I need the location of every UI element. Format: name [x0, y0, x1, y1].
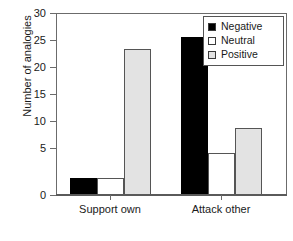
y-tick-label-15: 15 — [22, 89, 46, 100]
legend: Negative Neutral Positive — [203, 16, 284, 66]
bar-support-own-neutral — [97, 178, 124, 195]
x-axis-label-support-own: Support own — [60, 203, 160, 215]
y-tick-label-20: 20 — [22, 62, 46, 73]
legend-label-neutral: Neutral — [221, 35, 255, 46]
legend-swatch-neutral-icon — [208, 37, 216, 45]
y-tick-label-30: 30 — [22, 8, 46, 19]
legend-label-negative: Negative — [221, 21, 262, 32]
legend-swatch-positive-icon — [208, 51, 216, 59]
y-tick-20: 20 — [0, 62, 56, 73]
bar-chart: Number of analogies 30 25 20 15 10 5 0 — [0, 0, 293, 241]
legend-item-positive: Positive — [208, 48, 279, 61]
bar-attack-other-positive — [235, 128, 262, 195]
bar-support-own-positive — [124, 49, 151, 195]
y-tick-label-0: 0 — [22, 190, 46, 201]
x-tickmark-attack-other — [221, 195, 222, 200]
legend-label-positive: Positive — [221, 49, 258, 60]
x-tickmark-support-own — [110, 195, 111, 200]
y-tick-5: 5 — [0, 143, 56, 154]
y-axis-ticks: 30 25 20 15 10 5 0 — [0, 0, 56, 241]
y-tick-label-10: 10 — [22, 116, 46, 127]
y-tick-10: 10 — [0, 116, 56, 127]
y-tick-label-25: 25 — [22, 35, 46, 46]
legend-item-negative: Negative — [208, 20, 279, 33]
legend-item-neutral: Neutral — [208, 34, 279, 47]
y-tick-25: 25 — [0, 35, 56, 46]
legend-swatch-negative-icon — [208, 23, 216, 31]
y-tick-15: 15 — [0, 89, 56, 100]
bar-support-own-negative — [70, 178, 97, 195]
bar-attack-other-neutral — [208, 153, 235, 195]
y-tick-30: 30 — [0, 8, 56, 19]
x-axis-line — [56, 194, 287, 196]
y-tick-0: 0 — [0, 190, 56, 201]
x-axis-label-attack-other: Attack other — [171, 203, 271, 215]
y-tick-label-5: 5 — [22, 143, 46, 154]
